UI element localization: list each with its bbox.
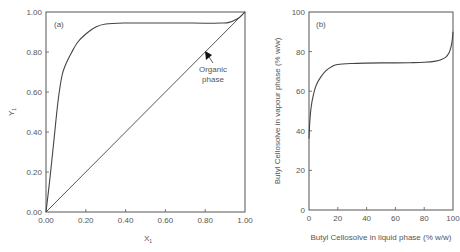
y-tick-label: 100 xyxy=(292,8,306,17)
chart-a-diagonal-line xyxy=(46,12,245,212)
x-tick-label: 0.80 xyxy=(197,216,213,225)
chart-b-y-axis-title: Butyl Cellosolve in vapour phase (% w/w) xyxy=(273,37,282,184)
x-label-sub: 1 xyxy=(149,238,152,244)
x-tick-label: 20 xyxy=(333,214,342,223)
y-tick-label: 0.60 xyxy=(26,88,42,97)
chart-b-panel-label: (b) xyxy=(316,20,326,29)
x-tick-label: 60 xyxy=(391,214,400,223)
chart-b-x-axis-title: Butyl Cellosolve in liquid phase (% w/w) xyxy=(311,233,452,242)
y-tick-label: 0 xyxy=(301,206,306,215)
annotation-organic: Organic xyxy=(199,65,227,74)
x-tick-label: 1.00 xyxy=(237,216,253,225)
y-tick-label: 0.80 xyxy=(26,48,42,57)
x-tick-label: 100 xyxy=(446,214,460,223)
y-tick-label: 0.40 xyxy=(26,128,42,137)
arrow-icon xyxy=(205,51,213,63)
chart-b-equilibrium-curve xyxy=(309,32,453,139)
x-tick-label: 40 xyxy=(362,214,371,223)
y-tick-label: 60 xyxy=(296,87,305,96)
y-tick-label: 1.00 xyxy=(26,8,42,17)
chart-b-x-ticks: 020406080100 xyxy=(307,207,460,223)
x-tick-label: 0.00 xyxy=(38,216,54,225)
chart-b-frame xyxy=(309,12,453,210)
chart-a-panel-label: (a) xyxy=(54,20,64,29)
annotation-phase: phase xyxy=(202,75,224,84)
x-tick-label: 0 xyxy=(307,214,312,223)
chart-a-x-axis-title: X1 xyxy=(144,234,152,244)
y-tick-label: 80 xyxy=(296,48,305,57)
y-label-sub: 1 xyxy=(11,108,17,111)
figure: 0.000.200.400.600.801.00 0.000.200.400.6… xyxy=(0,0,460,252)
chart-a-x-ticks: 0.000.200.400.600.801.00 xyxy=(38,209,253,225)
chart-a: 0.000.200.400.600.801.00 0.000.200.400.6… xyxy=(7,8,253,244)
chart-b: 020406080100 020406080100 (b) Butyl Cell… xyxy=(273,8,460,242)
x-tick-label: 0.60 xyxy=(158,216,174,225)
y-tick-label: 0.20 xyxy=(26,168,42,177)
chart-a-y-axis-title: Y1 xyxy=(7,108,17,116)
x-tick-label: 0.40 xyxy=(118,216,134,225)
x-tick-label: 80 xyxy=(420,214,429,223)
x-tick-label: 0.20 xyxy=(78,216,94,225)
y-tick-label: 40 xyxy=(296,127,305,136)
y-tick-label: 20 xyxy=(296,166,305,175)
